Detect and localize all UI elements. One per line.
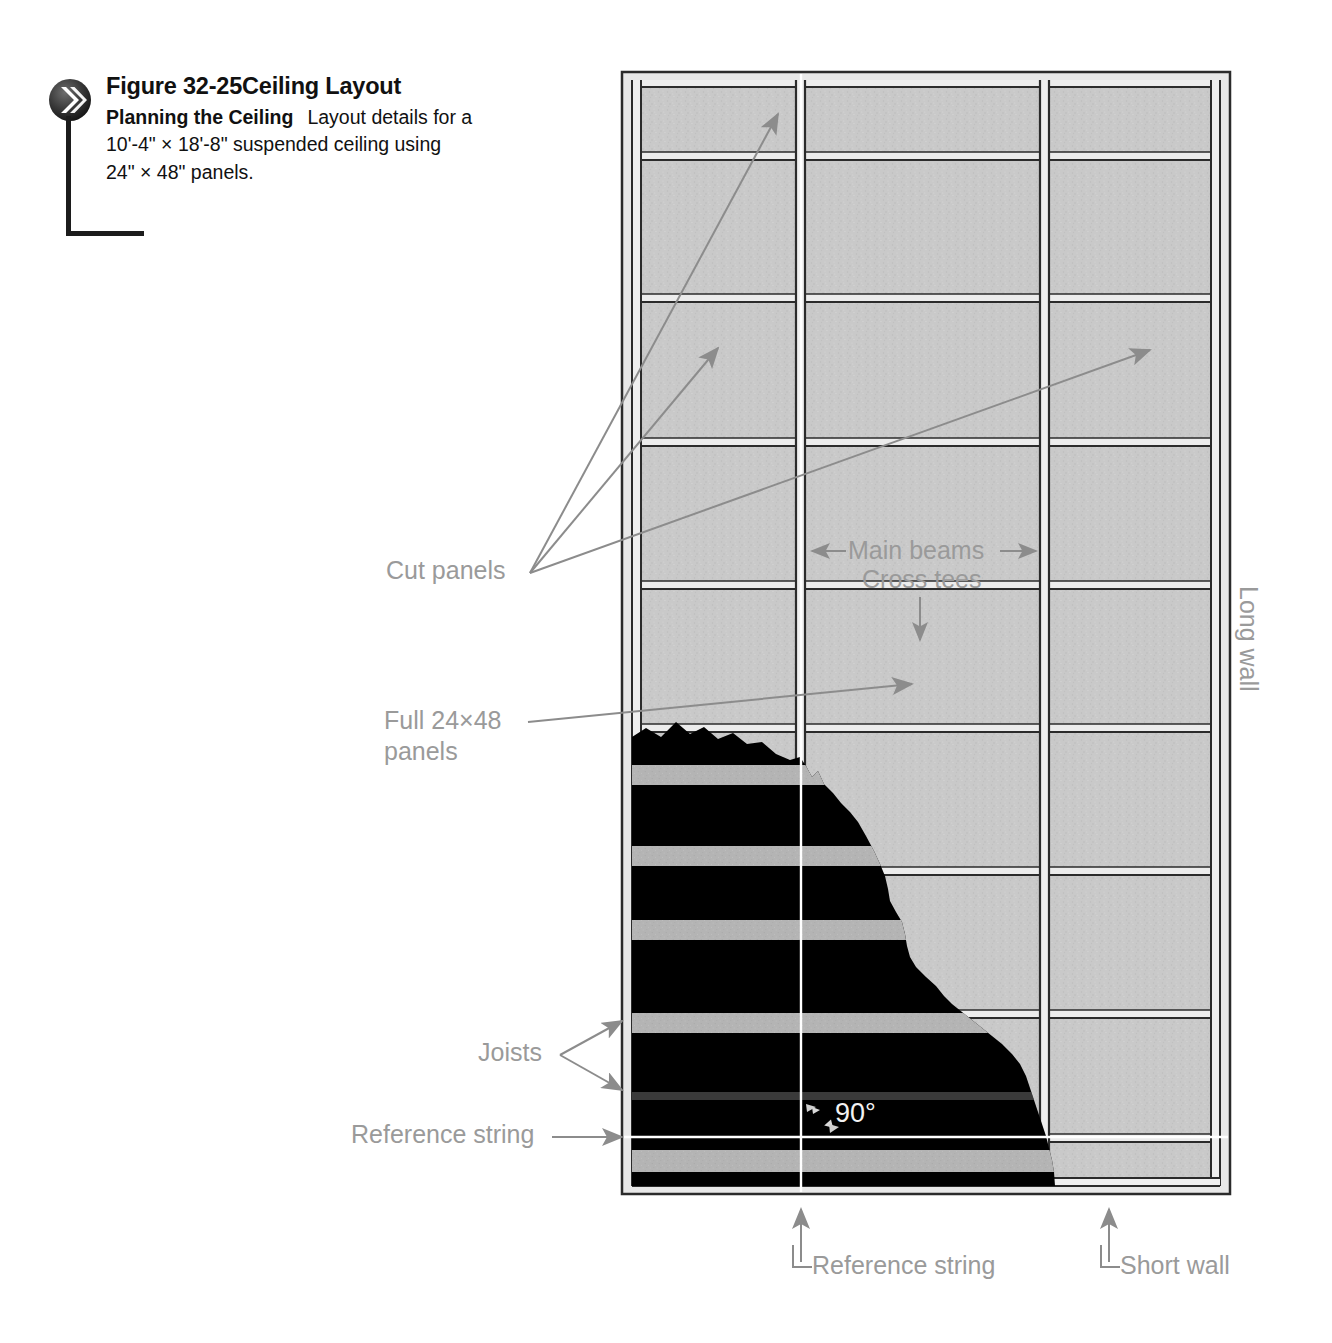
label-cross-tees: Cross tees <box>862 565 981 595</box>
label-cut-panels: Cut panels <box>386 556 506 586</box>
leader-joists-upper <box>560 1021 622 1055</box>
leader-joists-lower <box>560 1055 622 1090</box>
cross-tee <box>632 294 1220 302</box>
label-full-panels-line1: Full 24×48 <box>384 706 501 736</box>
figure-canvas: Figure 32-25Ceiling Layout Planning the … <box>0 0 1332 1343</box>
label-long-wall: Long wall <box>1234 586 1264 692</box>
label-short-wall: Short wall <box>1120 1251 1230 1281</box>
label-joists: Joists <box>478 1038 542 1068</box>
joist-band <box>628 1150 1068 1172</box>
label-main-beams: Main beams <box>848 536 984 566</box>
cross-tee <box>632 724 1220 732</box>
label-full-panels-line2: panels <box>384 737 458 767</box>
elbow-reference-string-bottom <box>793 1245 812 1267</box>
cross-tee <box>632 152 1220 160</box>
ceiling-layout-diagram <box>0 0 1332 1343</box>
elbow-short-wall <box>1101 1245 1120 1267</box>
cross-tee <box>632 438 1220 446</box>
cross-tee <box>632 80 1220 87</box>
label-reference-string-left: Reference string <box>351 1120 534 1150</box>
label-right-angle: 90° <box>835 1098 876 1130</box>
main-beam <box>1040 80 1049 1186</box>
ceiling-grid <box>600 72 1240 1230</box>
label-reference-string-bottom: Reference string <box>812 1251 995 1281</box>
